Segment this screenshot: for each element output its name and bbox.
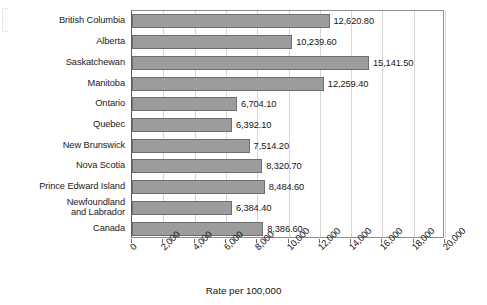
bar xyxy=(132,14,330,28)
bar-value-label: 6,392.10 xyxy=(236,120,271,130)
gridline xyxy=(414,11,415,237)
bar xyxy=(132,139,250,153)
bar xyxy=(132,159,262,173)
bar xyxy=(132,56,369,70)
category-label: Ontario xyxy=(95,98,125,108)
category-label: Nova Scotia xyxy=(76,160,125,170)
plot-area: 12,620.8010,239.6015,141.5012,259.406,70… xyxy=(131,10,444,238)
bar xyxy=(132,97,237,111)
category-label: Quebec xyxy=(93,119,125,129)
category-label: Canada xyxy=(93,223,125,233)
gridline xyxy=(382,11,383,237)
category-label: Saskatchewan xyxy=(66,57,125,67)
bar xyxy=(132,118,232,132)
category-label: Alberta xyxy=(96,36,125,46)
bar xyxy=(132,180,265,194)
bar xyxy=(132,77,324,91)
x-axis-ticks: 02,0004,0006,0008,00010,00012,00014,0001… xyxy=(131,239,444,284)
bar-value-label: 8,320.70 xyxy=(266,161,301,171)
bar-value-label: 6,384.40 xyxy=(236,203,271,213)
category-label: Prince Edward Island xyxy=(39,181,125,191)
bar xyxy=(132,201,232,215)
bar-value-label: 6,704.10 xyxy=(241,99,276,109)
bar-value-label: 10,239.60 xyxy=(296,37,336,47)
bar-value-label: 15,141.50 xyxy=(373,58,413,68)
category-label: Manitoba xyxy=(88,78,125,88)
bar xyxy=(132,35,292,49)
gridline xyxy=(445,11,446,237)
x-axis-title: Rate per 100,000 xyxy=(0,285,487,296)
bar-value-label: 8,484.60 xyxy=(269,182,304,192)
bar xyxy=(132,222,263,236)
bar-value-label: 7,514.20 xyxy=(254,141,289,151)
category-label: Newfoundland and Labrador xyxy=(67,197,125,217)
category-label: New Brunswick xyxy=(63,140,125,150)
category-label: British Columbia xyxy=(59,15,125,25)
category-axis-labels: British ColumbiaAlbertaSaskatchewanManit… xyxy=(0,10,128,238)
bar-chart: British ColumbiaAlbertaSaskatchewanManit… xyxy=(0,0,487,305)
bar-value-label: 12,620.80 xyxy=(334,16,374,26)
gridline xyxy=(351,11,352,237)
bar-value-label: 12,259.40 xyxy=(328,79,368,89)
x-tick-label: 0 xyxy=(128,241,139,252)
